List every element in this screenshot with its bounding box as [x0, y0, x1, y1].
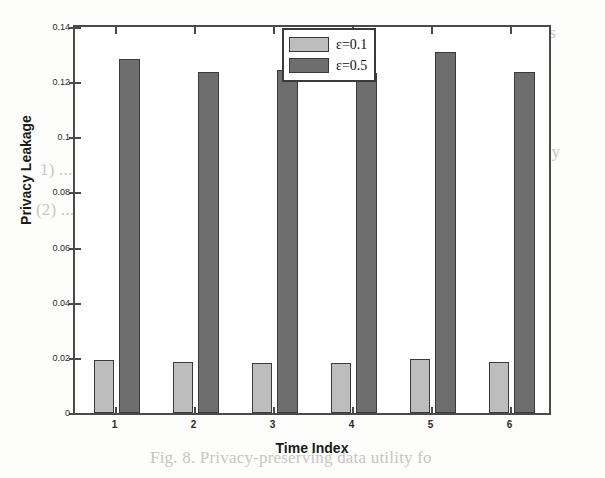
x-tick-label: 4	[349, 419, 355, 430]
bar	[198, 72, 219, 413]
y-tick-label: 0.02	[52, 353, 70, 363]
bar	[331, 363, 352, 413]
legend-item: ε=0.5	[289, 55, 367, 76]
bar	[356, 73, 377, 413]
scanned-page: ε, frequency ... σ ∈ [0.1, 0.5] expres a…	[0, 0, 605, 478]
bar	[252, 363, 273, 413]
y-tick-mark-right	[69, 82, 76, 84]
chart-legend: ε=0.1 ε=0.5	[282, 28, 376, 82]
bar	[514, 72, 535, 413]
legend-label-epsilon-0-1: ε=0.1	[336, 37, 367, 53]
x-tick-mark-top	[431, 27, 433, 34]
bar	[173, 362, 194, 413]
legend-label-epsilon-0-5: ε=0.5	[336, 58, 367, 74]
y-tick-mark-right	[69, 137, 76, 139]
x-tick-mark	[273, 407, 275, 414]
x-tick-mark-top	[273, 27, 275, 34]
x-tick-label: 2	[191, 419, 197, 430]
bar	[489, 362, 510, 413]
x-tick-mark	[431, 407, 433, 414]
y-tick-label: 0.12	[52, 77, 70, 87]
x-axis-title: Time Index	[73, 440, 551, 456]
y-tick-mark-right	[69, 358, 76, 360]
x-tick-label: 5	[428, 419, 434, 430]
bar-chart: 00.020.040.060.080.10.120.14123456 ε=0.1…	[0, 0, 605, 478]
x-tick-mark	[510, 407, 512, 414]
y-tick-mark-right	[69, 413, 76, 415]
x-tick-mark-top	[510, 27, 512, 34]
bar	[435, 52, 456, 413]
x-tick-mark	[352, 407, 354, 414]
y-tick-label: 0.04	[52, 298, 70, 308]
legend-swatch-epsilon-0-5	[289, 58, 329, 73]
x-tick-mark-top	[115, 27, 117, 34]
y-tick-label: 0.14	[52, 22, 70, 32]
x-tick-mark	[115, 407, 117, 414]
y-tick-mark-right	[69, 27, 76, 29]
y-tick-mark-right	[69, 192, 76, 194]
y-tick-mark-right	[69, 248, 76, 250]
bar	[94, 360, 115, 413]
bar	[277, 70, 298, 413]
legend-swatch-epsilon-0-1	[289, 37, 329, 52]
x-tick-label: 3	[270, 419, 276, 430]
y-tick-label: 0.08	[52, 187, 70, 197]
x-tick-mark	[194, 407, 196, 414]
y-axis-title: Privacy Leakage	[18, 70, 34, 270]
x-tick-mark-top	[194, 27, 196, 34]
y-tick-label: 0.1	[57, 132, 70, 142]
y-tick-mark-right	[69, 303, 76, 305]
x-tick-label: 6	[507, 419, 513, 430]
x-tick-label: 1	[112, 419, 118, 430]
bar	[410, 359, 431, 413]
legend-item: ε=0.1	[289, 34, 367, 55]
y-tick-label: 0.06	[52, 243, 70, 253]
plot-area: 00.020.040.060.080.10.120.14123456	[73, 25, 551, 415]
bar	[119, 59, 140, 413]
y-tick-label: 0	[65, 408, 70, 418]
